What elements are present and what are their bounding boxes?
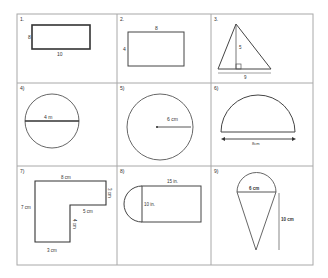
label-diameter: 8cm bbox=[252, 141, 260, 146]
problem-1-rectangle: 8 10 bbox=[28, 25, 90, 57]
problem-2-rectangle: 8 4 bbox=[123, 25, 184, 66]
worksheet: 1. 2. 3. 4) 5) 6) 7) 8) 9) 8 10 8 4 5 9 … bbox=[0, 0, 328, 278]
problem-7-l-shape: 8 cm 7 cm 5 cm 3 cm 3 cm 4 cm bbox=[21, 175, 112, 253]
label-inner-horizontal: 5 cm bbox=[83, 209, 93, 214]
problem-number-3: 3. bbox=[214, 16, 218, 22]
problem-8-composite: 15 in. 10 in. bbox=[124, 179, 201, 222]
label-right: 3 cm bbox=[107, 188, 112, 198]
problem-number-2: 2. bbox=[120, 16, 124, 22]
problem-number-1: 1. bbox=[20, 16, 24, 22]
label-height: 4 bbox=[123, 46, 126, 52]
problem-number-6: 6) bbox=[214, 85, 219, 91]
label-bottom: 3 cm bbox=[47, 248, 57, 253]
problem-number-9: 9) bbox=[214, 168, 219, 174]
problem-9-cone: 6 cm 10 cm bbox=[237, 173, 294, 251]
label-top: 8 cm bbox=[61, 175, 71, 180]
label-height: 10 in. bbox=[144, 202, 155, 207]
problem-3-triangle: 5 9 bbox=[218, 24, 271, 80]
label-height: 5 bbox=[239, 45, 242, 50]
problem-number-8: 8) bbox=[120, 168, 125, 174]
label-diameter: 4 m bbox=[44, 114, 52, 120]
problem-4-circle: 4 m bbox=[25, 94, 79, 148]
label-width: 10 bbox=[57, 51, 63, 57]
problem-6-semicircle: 8cm bbox=[221, 95, 296, 146]
label-height: 10 cm bbox=[281, 217, 294, 222]
problem-numbers: 1. 2. 3. 4) 5) 6) 7) 8) 9) bbox=[20, 16, 219, 174]
label-diameter: 6 cm bbox=[249, 186, 259, 191]
label-base: 9 bbox=[244, 75, 247, 80]
label-radius: 6 cm bbox=[167, 116, 178, 122]
problem-number-7: 7) bbox=[20, 168, 25, 174]
problem-number-5: 5) bbox=[120, 85, 125, 91]
label-length: 15 in. bbox=[167, 179, 178, 184]
label-left: 7 cm bbox=[21, 205, 31, 210]
label-height: 8 bbox=[28, 34, 31, 40]
problem-5-circle: 6 cm bbox=[127, 94, 193, 160]
label-inner-vertical: 4 cm bbox=[72, 219, 77, 229]
label-width: 8 bbox=[155, 25, 158, 31]
problem-number-4: 4) bbox=[20, 85, 25, 91]
